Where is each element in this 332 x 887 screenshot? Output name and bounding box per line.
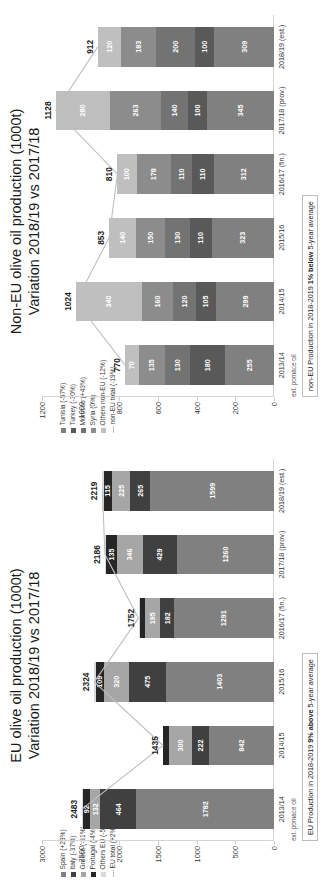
eu-bar-column: 1291182195 [139,598,274,637]
eu-y-tick-label: 2000 [115,846,124,862]
eu-bar-segment [140,598,145,637]
noneu-segment-value: 130 [174,359,181,371]
noneu-bar-segment: 130 [165,218,190,257]
noneu-segment-value: 263 [132,105,139,117]
noneu-bar-segment: 110 [171,154,192,193]
noneu-bar-segment: 140 [161,91,188,130]
noneu-y-tick [42,397,43,401]
eu-bar-segment: 1599 [150,471,274,510]
eu-total-value-label: 1435 [150,736,160,755]
noneu-total-value-label: 810 [104,167,114,181]
eu-y-tick-label: 1000 [192,846,201,862]
noneu-segment-value: 150 [147,232,154,244]
eu-note-suffix: 5-year average [306,659,315,709]
noneu-bar-column: 345100140263280 [56,91,274,130]
noneu-segment-value: 110 [199,168,206,180]
noneu-segment-value: 200 [172,41,179,53]
eu-segment-value: 300 [177,740,184,752]
eu-bar-segment [163,726,168,765]
noneu-segment-value: 299 [242,296,249,308]
noneu-segment-value: 100 [123,168,130,180]
eu-segment-value: 265 [137,485,144,497]
noneu-y-tick [197,397,198,401]
noneu-segment-value: 178 [150,168,157,180]
eu-segment-value: 1260 [222,547,229,563]
noneu-note-bold: 1% below [306,252,315,285]
eu-legend-swatch [81,872,86,877]
eu-segment-value: 1599 [209,483,216,499]
eu-note-bold: 9% above [306,710,315,743]
eu-segment-value: 429 [156,549,163,561]
eu-bar-segment: 1291 [174,598,274,637]
noneu-y-tick-label: 1200 [38,402,47,418]
noneu-x-tick-label: 2016/17 (fin.) [277,153,286,195]
eu-segment-value: 320 [113,676,120,688]
eu-y-tick [119,841,120,845]
noneu-bar-segment: 100 [117,154,136,193]
eu-y-tick [235,841,236,845]
noneu-note-prefix: non-EU Production in 2018-2019 [306,284,315,391]
noneu-segment-value: 340 [105,296,112,308]
eu-bar-segment: 1403 [166,662,274,701]
noneu-segment-value: 160 [154,296,161,308]
noneu-legend-swatch [61,428,66,433]
eu-segment-value: 842 [238,740,245,752]
noneu-plot-area: 2551801301357029910512016034032311013015… [42,15,274,397]
noneu-title-line1: Non-EU olive oil production (1000t) [8,0,26,443]
eu-legend-swatch [71,872,76,877]
eu-bar-segment: 225 [112,471,129,510]
eu-y-tick [42,841,43,845]
noneu-note-suffix: 5-year average [306,201,315,251]
eu-segment-value: 464 [115,803,122,815]
eu-footnote: exl. pomace oil [290,798,297,841]
noneu-segment-value: 255 [246,359,253,371]
noneu-y-tick [119,397,120,401]
eu-bar-segment: 109 [96,662,104,701]
eu-plot-area: 1782464132928422223001403475320109129118… [42,459,274,841]
noneu-bar-segment: 120 [173,282,196,321]
noneu-bar-segment: 345 [207,91,274,130]
noneu-bar-segment: 309 [214,27,274,66]
eu-bar-segment: 1260 [177,535,274,574]
eu-segment-value: 109 [96,676,103,688]
eu-x-tick-label: 2013/14 [277,796,286,822]
noneu-segment-value: 140 [119,232,126,244]
noneu-legend-line-marker [113,426,114,433]
noneu-x-tick-labels: 2013/142014/152015/162016/17 (fin.)2017/… [277,15,289,397]
eu-bar-segment: 1782 [136,789,274,828]
eu-x-tick-label: 2017/18 (prov.) [277,530,286,578]
noneu-y-tick-label: 400 [192,402,201,414]
noneu-bar-column: 312110110178100 [117,154,274,193]
eu-total-value-label: 2324 [81,673,91,692]
noneu-bar-segment: 100 [188,91,207,130]
noneu-bar-segment: 140 [109,218,136,257]
noneu-footnote: exl. pomace oil [290,354,297,397]
noneu-bar-segment: 160 [142,282,173,321]
eu-bar-column: 1599265225115 [102,471,274,510]
eu-y-tick-label: 0 [270,846,279,850]
eu-bar-segment [105,535,106,574]
noneu-total-value-label: 1024 [63,292,73,311]
noneu-segment-value: 120 [181,296,188,308]
eu-legend-swatch [61,872,66,877]
noneu-bars: 2551801301357029910512016034032311013015… [42,15,274,397]
eu-x-tick-label: 2015/16 [277,669,286,695]
noneu-segment-value: 135 [148,359,155,371]
noneu-x-tick-label: 2015/16 [277,225,286,251]
eu-bar-segment: 132 [90,789,100,828]
eu-summary-note: EU Production in 2018-2019 9% above 5-ye… [302,653,318,841]
eu-bars: 1782464132928422223001403475320109129118… [42,459,274,841]
eu-segment-value: 222 [197,740,204,752]
noneu-y-tick-label: 600 [154,402,163,414]
eu-bar-segment: 222 [192,726,209,765]
screenshot-frame: EU olive oil production (1000t) Variatio… [0,0,332,887]
noneu-legend-swatch [71,428,76,433]
eu-total-value-label: 2219 [89,482,99,501]
noneu-segment-value: 120 [106,41,113,53]
noneu-y-tick-label: 0 [270,402,279,406]
noneu-x-tick-label: 2014/15 [277,289,286,315]
noneu-summary-note: non-EU Production in 2018-2019 1% below … [302,195,318,397]
eu-total-value-label: 2483 [69,800,79,819]
noneu-segment-value: 100 [201,41,208,53]
eu-bar-segment [102,471,103,510]
